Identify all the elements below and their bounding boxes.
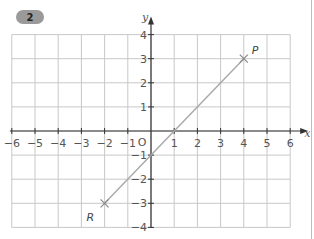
x-tick-label: 1: [171, 137, 178, 150]
x-axis-label: x: [304, 127, 311, 140]
y-tick-label: 2: [140, 77, 147, 90]
point-label-r: R: [87, 211, 95, 224]
axes: xy: [10, 11, 311, 228]
x-tick-label: 6: [287, 137, 294, 150]
x-tick-label: −2: [96, 137, 112, 150]
y-tick-label: −3: [131, 197, 147, 210]
origin-label: O: [138, 136, 147, 149]
x-tick-label: −1: [120, 137, 136, 150]
y-tick-label: −2: [131, 173, 147, 186]
x-tick-label: 5: [264, 137, 271, 150]
y-tick-label: 1: [140, 101, 147, 114]
x-tick-label: −6: [4, 137, 20, 150]
point-label-p: P: [252, 44, 259, 57]
y-axis-arrow-icon: [148, 17, 154, 25]
x-tick-label: −4: [50, 137, 66, 150]
y-tick-label: −4: [131, 221, 147, 234]
x-tick-label: 2: [194, 137, 201, 150]
y-tick-label: 3: [140, 53, 147, 66]
y-axis-label: y: [141, 11, 149, 24]
coordinate-plane: xy −6−5−4−3−2−11234564321−1−2−3−4O PR: [0, 0, 314, 239]
x-tick-label: 4: [240, 137, 247, 150]
x-tick-label: −5: [27, 137, 43, 150]
y-tick-label: 4: [140, 29, 147, 42]
y-tick-label: −1: [131, 149, 147, 162]
x-tick-label: 3: [217, 137, 224, 150]
x-tick-label: −3: [73, 137, 89, 150]
